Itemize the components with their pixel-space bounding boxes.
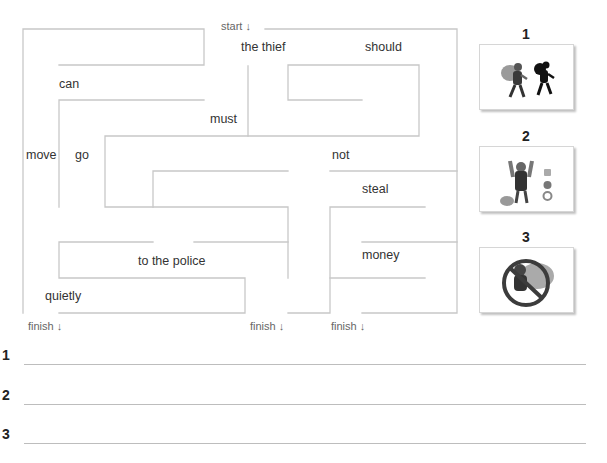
start-marker: start ↓ [221, 20, 251, 32]
maze-wall [288, 207, 425, 313]
finish-marker-1: finish ↓ [28, 320, 62, 332]
prohibited-thief-icon [480, 248, 573, 312]
maze-wall [59, 242, 245, 313]
answer-number-2: 2 [2, 387, 10, 403]
maze-wall [153, 171, 288, 207]
maze-word: to the police [138, 254, 205, 268]
picture-card-2 [479, 146, 574, 212]
thief-running-icon [480, 45, 573, 109]
picture-card-1 [479, 44, 574, 110]
thief-with-loot-icon [480, 147, 573, 211]
finish-marker-2: finish ↓ [250, 320, 284, 332]
maze-word: steal [362, 182, 388, 196]
answer-number-1: 1 [2, 347, 10, 363]
maze-word: go [75, 148, 89, 162]
maze-word: move [26, 148, 57, 162]
maze-word: must [210, 112, 237, 126]
picture-number: 3 [479, 229, 573, 245]
maze-word: quietly [45, 289, 81, 303]
finish-marker-3: finish ↓ [331, 320, 365, 332]
maze-word: can [59, 77, 79, 91]
picture-card-3 [479, 247, 574, 313]
answer-number-3: 3 [2, 426, 10, 442]
answer-line-2[interactable] [24, 404, 586, 405]
answer-line-1[interactable] [24, 364, 586, 365]
maze-word: should [365, 40, 402, 54]
picture-number: 2 [479, 128, 573, 144]
maze-word: money [362, 248, 400, 262]
maze-word: not [332, 148, 349, 162]
maze-word: the thief [241, 40, 285, 54]
answer-line-3[interactable] [24, 443, 586, 444]
picture-number: 1 [479, 26, 573, 42]
